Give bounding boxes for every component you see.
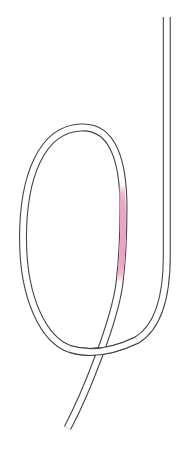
rope-drawing xyxy=(0,0,186,452)
rope-fill xyxy=(23,17,167,428)
highlight-segment xyxy=(120,186,123,281)
knot-diagram-figure xyxy=(0,0,186,452)
